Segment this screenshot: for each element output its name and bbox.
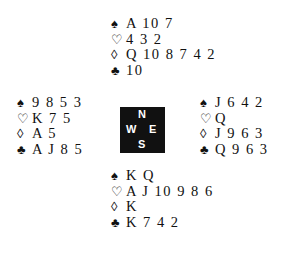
diamond-icon: ◊	[111, 199, 126, 215]
west-hearts: ♡K 7 5	[17, 111, 83, 127]
spade-icon: ♠	[111, 16, 126, 32]
south-hand: ♠K Q ♡A J 10 9 8 6 ◊K ♣K 7 4 2	[111, 168, 214, 230]
west-hand: ♠9 8 5 3 ♡K 7 5 ◊A 5 ♣A J 8 5	[17, 95, 83, 157]
east-diamonds: ◊J 9 6 3	[200, 126, 269, 142]
north-clubs: ♣10	[111, 63, 216, 79]
south-hearts: ♡A J 10 9 8 6	[111, 184, 214, 200]
heart-icon: ♡	[111, 32, 126, 48]
club-icon: ♣	[17, 142, 32, 158]
heart-icon: ♡	[111, 184, 126, 200]
compass-north: N	[138, 108, 146, 120]
north-spades: ♠A 10 7	[111, 16, 216, 32]
compass-west: W	[126, 123, 136, 135]
compass-box: N W E S	[120, 107, 165, 153]
east-hand: ♠J 6 4 2 ♡Q ◊J 9 6 3 ♣Q 9 6 3	[200, 95, 269, 157]
south-clubs: ♣K 7 4 2	[111, 215, 214, 231]
spade-icon: ♠	[200, 95, 215, 111]
south-spades: ♠K Q	[111, 168, 214, 184]
north-diamonds: ◊Q 10 8 7 4 2	[111, 47, 216, 63]
heart-icon: ♡	[17, 111, 32, 127]
west-diamonds: ◊A 5	[17, 126, 83, 142]
spade-icon: ♠	[17, 95, 32, 111]
club-icon: ♣	[200, 142, 215, 158]
east-hearts: ♡Q	[200, 111, 269, 127]
east-spades: ♠J 6 4 2	[200, 95, 269, 111]
north-hearts: ♡4 3 2	[111, 32, 216, 48]
compass-east: E	[149, 123, 156, 135]
club-icon: ♣	[111, 215, 126, 231]
diamond-icon: ◊	[200, 126, 215, 142]
club-icon: ♣	[111, 63, 126, 79]
spade-icon: ♠	[111, 168, 126, 184]
north-hand: ♠A 10 7 ♡4 3 2 ◊Q 10 8 7 4 2 ♣10	[111, 16, 216, 78]
diamond-icon: ◊	[17, 126, 32, 142]
east-clubs: ♣Q 9 6 3	[200, 142, 269, 158]
diamond-icon: ◊	[111, 47, 126, 63]
heart-icon: ♡	[200, 111, 215, 127]
compass-south: S	[138, 138, 145, 150]
west-spades: ♠9 8 5 3	[17, 95, 83, 111]
west-clubs: ♣A J 8 5	[17, 142, 83, 158]
south-diamonds: ◊K	[111, 199, 214, 215]
